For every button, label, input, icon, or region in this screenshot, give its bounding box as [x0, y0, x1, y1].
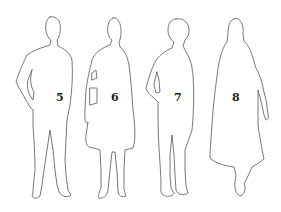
figure-7: 7	[146, 19, 194, 197]
figure-6-label: 6	[111, 91, 119, 104]
figure-5-label: 5	[56, 91, 64, 104]
figure-6-outline	[85, 18, 135, 198]
figures-illustration: 5 6 7 8	[0, 0, 281, 212]
figure-8: 8	[210, 18, 268, 196]
figure-7-outline	[146, 19, 194, 197]
figure-5: 5	[16, 17, 72, 198]
figure-8-outline	[210, 18, 268, 196]
figure-5-outline	[16, 17, 72, 198]
figure-6: 6	[85, 18, 135, 198]
figure-8-label: 8	[232, 91, 240, 104]
figure-7-label: 7	[174, 91, 182, 104]
